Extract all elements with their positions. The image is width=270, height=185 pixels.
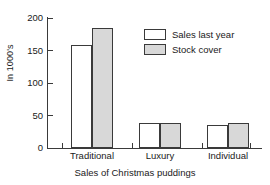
legend-swatch-stock-cover xyxy=(144,44,166,55)
y-tick-label-100: 100 xyxy=(3,78,43,88)
chart-legend: Sales last year Stock cover xyxy=(144,28,234,58)
bar-luxury-stock-cover xyxy=(160,123,181,148)
legend-swatch-sales-last-year xyxy=(144,29,166,40)
bar-luxury-sales-last-year xyxy=(139,123,160,148)
y-tick-label-0: 0 xyxy=(3,143,43,153)
legend-label-sales-last-year: Sales last year xyxy=(172,29,234,40)
y-tick-mark-100 xyxy=(48,83,53,84)
x-tick-mark-5 xyxy=(202,143,203,148)
y-tick-mark-150 xyxy=(48,50,53,51)
bar-traditional-sales-last-year xyxy=(71,45,92,148)
bar-individual-stock-cover xyxy=(228,123,249,148)
x-tick-mark-3 xyxy=(132,143,133,148)
x-axis-title: Sales of Christmas puddings xyxy=(0,167,270,178)
bar-individual-sales-last-year xyxy=(207,125,228,148)
y-tick-mark-0 xyxy=(48,148,53,149)
legend-label-stock-cover: Stock cover xyxy=(172,44,222,55)
legend-item-stock-cover: Stock cover xyxy=(144,43,234,56)
y-tick-label-50: 50 xyxy=(3,111,43,121)
x-category-label-individual: Individual xyxy=(182,150,270,161)
bar-traditional-stock-cover xyxy=(92,28,113,148)
legend-item-sales-last-year: Sales last year xyxy=(144,28,234,41)
y-tick-mark-50 xyxy=(48,115,53,116)
x-tick-mark-1 xyxy=(62,143,63,148)
y-tick-mark-200 xyxy=(48,18,53,19)
y-tick-label-150: 150 xyxy=(3,46,43,56)
bar-chart: In 1000's 200 150 100 50 0 Traditional L… xyxy=(0,0,270,185)
x-tick-mark-6 xyxy=(250,143,251,148)
y-tick-label-200: 200 xyxy=(3,13,43,23)
